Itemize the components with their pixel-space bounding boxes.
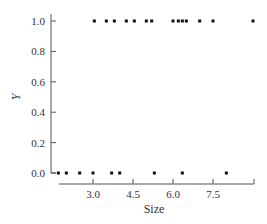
data-point <box>133 20 136 23</box>
scatter-chart: 0.00.20.40.60.81.0 3.04.56.07.5 Size Y <box>0 0 267 224</box>
x-tick-label: 4.5 <box>126 188 140 200</box>
y-tick-label: 0.8 <box>31 45 45 57</box>
x-tick-label: 7.5 <box>206 188 220 200</box>
data-point <box>225 172 228 175</box>
data-point <box>212 20 215 23</box>
data-point <box>92 172 95 175</box>
data-point <box>198 20 201 23</box>
data-point <box>185 20 188 23</box>
y-tick-label: 0.6 <box>31 76 45 88</box>
data-point <box>110 172 113 175</box>
y-tick-label: 0.0 <box>31 167 45 179</box>
x-tick-label: 6.0 <box>166 188 180 200</box>
data-point <box>181 172 184 175</box>
x-axis-label: Size <box>144 202 165 216</box>
data-point <box>153 172 156 175</box>
data-point <box>177 20 180 23</box>
data-point <box>172 20 175 23</box>
data-point <box>252 20 255 23</box>
data-point <box>93 20 96 23</box>
x-axis: 3.04.56.07.5 <box>59 179 254 200</box>
data-point <box>65 172 68 175</box>
y-tick-label: 0.4 <box>31 106 45 118</box>
data-point <box>105 20 108 23</box>
y-tick-label: 1.0 <box>31 15 45 27</box>
x-tick-label: 3.0 <box>86 188 100 200</box>
data-point <box>57 172 60 175</box>
data-point <box>181 20 184 23</box>
data-point <box>150 20 153 23</box>
data-point <box>145 20 148 23</box>
data-point <box>118 172 121 175</box>
data-point <box>113 20 116 23</box>
y-axis: 0.00.20.40.60.81.0 <box>31 14 56 179</box>
y-tick-label: 0.2 <box>31 137 45 149</box>
y-axis-label: Y <box>9 92 23 100</box>
data-point <box>125 20 128 23</box>
data-point <box>78 172 81 175</box>
data-points <box>57 20 255 175</box>
